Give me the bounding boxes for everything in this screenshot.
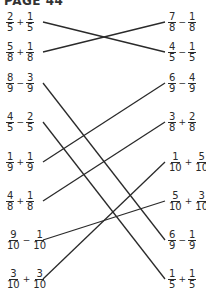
- numerator: 1: [6, 152, 14, 163]
- denominator: 8: [188, 123, 196, 133]
- numerator: 3: [9, 269, 17, 280]
- fraction: 18: [26, 42, 34, 63]
- numerator: 1: [188, 269, 196, 280]
- denominator: 8: [26, 202, 34, 212]
- fraction: 45: [168, 42, 176, 63]
- numerator: 2: [6, 12, 14, 23]
- numerator: 1: [26, 191, 34, 202]
- fraction: 510: [194, 152, 206, 173]
- fraction: 15: [188, 42, 196, 63]
- fraction: 15: [26, 12, 34, 33]
- left-expression[interactable]: 19+19: [6, 147, 34, 177]
- numerator: 4: [168, 42, 176, 53]
- denominator: 5: [168, 280, 176, 290]
- right-expression[interactable]: 45−15: [168, 37, 196, 67]
- denominator: 9: [168, 241, 176, 251]
- left-expression[interactable]: 25+15: [6, 7, 34, 37]
- fraction: 19: [188, 230, 196, 251]
- operator: +: [23, 274, 31, 284]
- numerator: 1: [188, 12, 196, 23]
- denominator: 10: [32, 241, 47, 251]
- operator: +: [16, 17, 24, 27]
- right-expression[interactable]: 69−49: [168, 68, 196, 98]
- right-expression[interactable]: 38+28: [168, 107, 196, 137]
- numerator: 2: [188, 112, 196, 123]
- denominator: 8: [168, 123, 176, 133]
- numerator: 5: [171, 191, 179, 202]
- fraction: 110: [168, 152, 183, 173]
- fraction: 69: [168, 230, 176, 251]
- numerator: 7: [168, 12, 176, 23]
- fraction: 45: [6, 112, 14, 133]
- operator: +: [16, 157, 24, 167]
- numerator: 1: [26, 152, 34, 163]
- numerator: 3: [197, 191, 205, 202]
- left-expression[interactable]: 48+18: [6, 186, 34, 216]
- numerator: 4: [6, 112, 14, 123]
- numerator: 1: [188, 230, 196, 241]
- denominator: 9: [6, 163, 14, 173]
- fraction: 15: [168, 269, 176, 290]
- fraction: 510: [168, 191, 183, 212]
- denominator: 8: [6, 53, 14, 63]
- right-expression[interactable]: 110+510: [168, 147, 206, 177]
- operator: +: [185, 157, 193, 167]
- operator: −: [178, 17, 186, 27]
- right-expression[interactable]: 69−19: [168, 225, 196, 255]
- fraction: 28: [188, 112, 196, 133]
- fraction: 310: [6, 269, 21, 290]
- fraction: 110: [32, 230, 47, 251]
- left-expression[interactable]: 910−110: [6, 225, 47, 255]
- left-expression[interactable]: 310+310: [6, 264, 47, 293]
- fraction: 25: [6, 12, 14, 33]
- denominator: 10: [168, 163, 183, 173]
- fraction: 18: [188, 12, 196, 33]
- fraction: 310: [32, 269, 47, 290]
- numerator: 4: [6, 191, 14, 202]
- fraction: 25: [26, 112, 34, 133]
- denominator: 10: [194, 202, 206, 212]
- denominator: 9: [6, 84, 14, 94]
- fraction: 39: [26, 73, 34, 94]
- numerator: 1: [35, 230, 43, 241]
- operator: −: [23, 235, 31, 245]
- connection-line: [43, 162, 165, 279]
- denominator: 10: [32, 280, 47, 290]
- fraction: 69: [168, 73, 176, 94]
- denominator: 10: [6, 241, 21, 251]
- fraction: 49: [188, 73, 196, 94]
- left-expression[interactable]: 45−25: [6, 107, 34, 137]
- right-expression[interactable]: 510+310: [168, 186, 206, 216]
- fraction: 38: [168, 112, 176, 133]
- denominator: 5: [6, 123, 14, 133]
- connection-line: [43, 122, 165, 201]
- operator: −: [178, 78, 186, 88]
- numerator: 3: [26, 73, 34, 84]
- operator: −: [178, 47, 186, 57]
- denominator: 8: [188, 23, 196, 33]
- numerator: 1: [168, 269, 176, 280]
- fraction: 15: [188, 269, 196, 290]
- left-expression[interactable]: 89−39: [6, 68, 34, 98]
- operator: +: [16, 47, 24, 57]
- denominator: 9: [188, 241, 196, 251]
- connection-line: [43, 83, 165, 162]
- numerator: 3: [35, 269, 43, 280]
- numerator: 4: [188, 73, 196, 84]
- fraction: 89: [6, 73, 14, 94]
- numerator: 1: [26, 12, 34, 23]
- operator: −: [16, 78, 24, 88]
- numerator: 5: [197, 152, 205, 163]
- denominator: 10: [194, 163, 206, 173]
- connection-line: [43, 122, 165, 279]
- denominator: 8: [168, 23, 176, 33]
- right-expression[interactable]: 78−18: [168, 7, 196, 37]
- fraction: 310: [194, 191, 206, 212]
- operator: +: [16, 196, 24, 206]
- operator: +: [178, 117, 186, 127]
- denominator: 5: [26, 123, 34, 133]
- right-expression[interactable]: 15+15: [168, 264, 196, 293]
- numerator: 2: [26, 112, 34, 123]
- left-expression[interactable]: 58+18: [6, 37, 34, 67]
- operator: +: [185, 196, 193, 206]
